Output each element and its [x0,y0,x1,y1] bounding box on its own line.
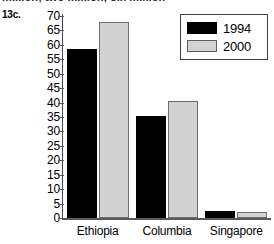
y-axis-tick-label: 50 [20,69,60,79]
y-axis-tick-label: 25 [20,141,60,151]
y-axis-tick-label: 15 [20,170,60,180]
legend-swatch-2000 [187,40,217,52]
legend-item-2000: 2000 [187,38,251,54]
y-axis-tick-label: 45 [20,83,60,93]
y-axis-tick-label: 70 [20,11,60,21]
legend-label-2000: 2000 [223,39,251,54]
chart-legend: 1994 2000 [180,14,268,60]
y-axis-tick-label: 5 [20,199,60,209]
bar-columbia-1994 [136,116,166,218]
bar-group [63,16,132,218]
y-axis-tick-label: 35 [20,112,60,122]
legend-item-1994: 1994 [187,20,251,36]
y-axis-tick-label: 10 [20,184,60,194]
bar-singapore-2000 [237,212,267,218]
y-axis-tick-label: 20 [20,155,60,165]
y-axis-tick-mark [58,218,64,219]
bar-ethiopia-1994 [67,49,97,218]
bar-chart: 7065605550454035302520151050 EthiopiaCol… [0,0,274,244]
x-axis-category-label: Singapore [202,224,271,238]
bar-columbia-2000 [168,101,198,218]
legend-swatch-1994 [187,22,217,34]
x-axis-line [62,218,271,220]
y-axis-tick-label: 55 [20,54,60,64]
bar-ethiopia-2000 [99,22,129,218]
legend-label-1994: 1994 [223,21,251,36]
x-axis-category-label: Columbia [132,224,201,238]
y-axis-tick-label: 40 [20,98,60,108]
y-axis-tick-label: 30 [20,126,60,136]
bar-singapore-1994 [205,211,235,218]
x-axis-category-label: Ethiopia [63,224,132,238]
y-axis-tick-label: 0 [20,213,60,223]
y-axis-tick-label: 60 [20,40,60,50]
y-axis-tick-label: 65 [20,25,60,35]
